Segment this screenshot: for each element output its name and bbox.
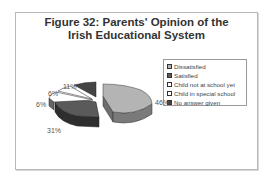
label-satisfied: 31% [47, 127, 61, 134]
label-not-at-school: 6% [36, 101, 46, 108]
pie-chart: 46% 31% 6% 6% 11% [0, 0, 269, 180]
slice-dissatisfied [103, 84, 152, 123]
label-dissatisfied: 46% [155, 99, 169, 106]
label-special-school: 6% [48, 90, 58, 97]
label-no-answer: 11% [63, 83, 77, 90]
